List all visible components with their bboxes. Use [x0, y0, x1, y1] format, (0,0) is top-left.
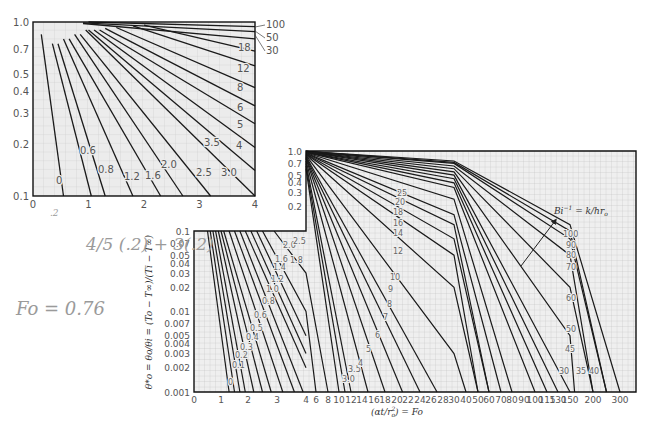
heisler-x-tick: 70 [495, 395, 507, 405]
small-y-tick: 0.1 [13, 191, 29, 202]
small-y-tick: 0.7 [13, 44, 29, 55]
handwritten-fourier-result: Fo = 0.76 [15, 298, 105, 319]
heisler-x-tick: 10 [333, 395, 345, 405]
small-curve-label: 1.2 [124, 171, 140, 182]
heisler-y-tick: 0.003 [164, 349, 190, 359]
small-curve-label: 5 [237, 119, 243, 130]
heisler-curve-label: 3.0 [342, 375, 355, 384]
heisler-x-tick: 200 [584, 395, 601, 405]
small-y-tick: 0.3 [13, 108, 29, 119]
heisler-curve-label: 16 [393, 219, 403, 228]
heisler-y-tick: 0.02 [170, 283, 190, 293]
heisler-curve-label: 1.8 [290, 256, 303, 265]
small-x-tick: 0 [30, 199, 36, 210]
heisler-curve-label: 25 [397, 189, 407, 198]
heisler-curve-label: 35 [576, 367, 586, 376]
heisler-y-tick: 0.03 [170, 269, 190, 279]
handwritten-calculation: 4/5 (.2) + 3(.2) [85, 234, 214, 254]
heisler-curve-label: 20 [395, 198, 405, 207]
heisler-x-tick: 22 [402, 395, 413, 405]
heisler-curve-label: 0.6 [254, 311, 267, 320]
handwritten-mark: .2 [50, 208, 59, 218]
heisler-y-tick: 0.007 [164, 319, 190, 329]
heisler-curve-label: 1.4 [273, 263, 286, 272]
small-curve-label: 30 [266, 45, 279, 56]
small-curve-label: 1.6 [145, 170, 161, 181]
heisler-y-tick: 0.04 [170, 259, 190, 269]
small-chart-y-axis: 1.00.70.50.40.30.20.1 [13, 17, 29, 202]
heisler-x-tick: 30 [448, 395, 460, 405]
heisler-y-tick: 0.004 [164, 339, 190, 349]
small-y-tick: 0.4 [13, 86, 29, 97]
heisler-curve-label: 6 [375, 331, 380, 340]
small-curve-label: 8 [237, 82, 243, 93]
small-curve-label: 100 [266, 19, 285, 30]
heisler-x-tick: 80 [506, 395, 518, 405]
heisler-y-tick: 0.2 [288, 202, 302, 212]
small-curve-label: 2.5 [196, 167, 212, 178]
heisler-curve-label: 0.2 [235, 351, 248, 360]
heisler-curve-label: 2.5 [293, 237, 306, 246]
small-curve-label: 0 [56, 175, 62, 186]
heisler-y-tick: 0.001 [164, 388, 190, 398]
small-x-tick: 1 [85, 199, 91, 210]
heisler-curve-label: 100 [563, 230, 578, 239]
small-curve-label: 3.5 [204, 137, 220, 148]
heisler-x-tick: 50 [472, 395, 484, 405]
heisler-curve-label: 5 [366, 345, 371, 354]
heisler-curve-label: 10 [390, 273, 400, 282]
heisler-curve-label: 18 [393, 208, 403, 217]
heisler-curve-label: 40 [589, 367, 599, 376]
small-curve-label: 6 [237, 102, 243, 113]
small-chart: 1.00.70.50.40.30.20.1 01234 100503018128… [13, 17, 285, 210]
heisler-y-tick: 0.4 [288, 178, 303, 188]
small-curve-label: 2.0 [161, 159, 177, 170]
heisler-curve-label: 45 [565, 345, 575, 354]
heisler-x-tick: 0 [191, 395, 197, 405]
heisler-x-tick: 16 [368, 395, 380, 405]
heisler-curve-label: 1.0 [266, 285, 279, 294]
heisler-x-tick: 40 [460, 395, 472, 405]
heisler-curve-label: 12 [393, 247, 403, 256]
bi-annotation: Bi−1 = k/hro [553, 204, 608, 217]
small-y-tick: 0.2 [13, 139, 29, 150]
heisler-curve-label: 9 [388, 285, 393, 294]
chart-canvas: 1.00.70.50.40.30.20.1 01234 100503018128… [0, 0, 649, 427]
heisler-y-tick: 0.01 [170, 307, 190, 317]
heisler-x-tick: 1 [218, 395, 224, 405]
small-chart-x-axis: 01234 [30, 199, 258, 210]
heisler-curve-label: 1.2 [271, 275, 284, 284]
heisler-x-tick: 150 [561, 395, 578, 405]
heisler-curve-label: 0.8 [262, 297, 275, 306]
small-curve-label: 0.8 [98, 164, 114, 175]
small-curve-label: 12 [237, 63, 250, 74]
small-curve-label: 3.0 [221, 167, 237, 178]
heisler-curve-label: 8 [387, 300, 392, 309]
heisler-curve-label: 60 [566, 294, 576, 303]
heisler-x-tick: 4 [303, 395, 309, 405]
heisler-x-tick: 28 [437, 395, 449, 405]
heisler-x-axis-label: (αt/r2o) = Fo [371, 405, 424, 418]
heisler-y-tick: 0.7 [288, 159, 302, 169]
heisler-curve-label: 7 [383, 313, 388, 322]
heisler-x-tick: 300 [611, 395, 628, 405]
heisler-x-tick: 60 [483, 395, 495, 405]
small-y-tick: 1.0 [13, 17, 29, 28]
small-curve-label: 18 [238, 42, 251, 53]
heisler-curve-label: 80 [566, 251, 576, 260]
heisler-y-tick: 0.002 [164, 363, 190, 373]
heisler-curve-label: 0.1 [232, 361, 245, 370]
heisler-curve-label: 50 [566, 325, 576, 334]
small-x-tick: 3 [196, 199, 202, 210]
heisler-x-tick: 18 [379, 395, 391, 405]
small-curve-label: 0.6 [80, 145, 96, 156]
heisler-x-tick: 12 [345, 395, 356, 405]
heisler-curve-label: 0 [228, 378, 233, 387]
heisler-curve-label: 0.4 [246, 333, 259, 342]
small-curve-label: 4 [236, 140, 242, 151]
heisler-y-tick: 1.0 [288, 147, 303, 157]
heisler-x-tick: 24 [414, 395, 426, 405]
heisler-curve-label: 0.3 [240, 343, 253, 352]
heisler-x-tick: 20 [391, 395, 403, 405]
heisler-y-tick: 0.3 [288, 188, 302, 198]
